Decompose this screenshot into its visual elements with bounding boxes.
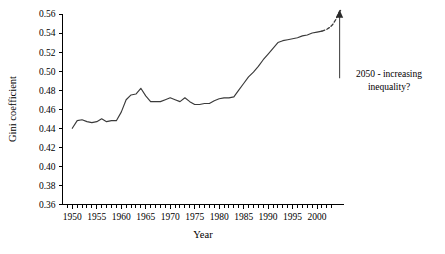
y-tick-label: 0.38 — [39, 181, 56, 191]
x-tick-label: 1960 — [112, 212, 131, 222]
y-tick-label: 0.52 — [39, 48, 56, 58]
y-tick-label: 0.50 — [39, 67, 56, 77]
x-axis-title: Year — [193, 229, 213, 240]
x-tick-label: 1970 — [161, 212, 180, 222]
y-tick-label: 0.46 — [39, 105, 56, 115]
x-tick-label: 1985 — [234, 212, 253, 222]
x-axis-minor-ticks — [67, 205, 331, 208]
series-line-observed — [72, 31, 322, 128]
x-tick-label: 2000 — [308, 212, 327, 222]
y-tick-label: 0.54 — [39, 28, 56, 38]
x-tick-label: 1980 — [210, 212, 229, 222]
x-tick-label: 1975 — [185, 212, 204, 222]
axes — [63, 14, 345, 205]
gini-coefficient-line-chart: 0.360.380.400.420.440.460.480.500.520.54… — [0, 0, 445, 254]
annotation-line-2: inequality? — [368, 82, 410, 92]
arrow-head — [336, 10, 343, 18]
projection-arrow-icon — [336, 10, 343, 79]
y-axis-tick-labels: 0.360.380.400.420.440.460.480.500.520.54… — [39, 9, 56, 210]
annotation-line-1: 2050 - increasing — [356, 69, 422, 79]
x-tick-label: 1990 — [259, 212, 278, 222]
x-tick-label: 1995 — [283, 212, 302, 222]
x-tick-label: 1950 — [63, 212, 82, 222]
x-tick-label: 1955 — [87, 212, 106, 222]
y-tick-label: 0.40 — [39, 162, 56, 172]
y-tick-label: 0.44 — [39, 124, 56, 134]
y-axis-title: Gini coefficient — [7, 76, 18, 142]
chart-figure: 0.360.380.400.420.440.460.480.500.520.54… — [0, 0, 445, 254]
x-tick-label: 1965 — [136, 212, 155, 222]
y-tick-label: 0.56 — [39, 9, 56, 19]
y-tick-label: 0.42 — [39, 143, 56, 153]
x-axis-tick-labels: 1950195519601965197019751980198519901995… — [63, 212, 327, 222]
y-tick-label: 0.48 — [39, 86, 56, 96]
y-axis-ticks — [59, 14, 63, 205]
y-tick-label: 0.36 — [39, 200, 56, 210]
